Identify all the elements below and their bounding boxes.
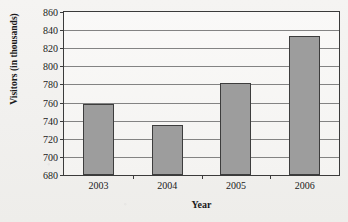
y-tick-label: 860	[43, 7, 58, 18]
y-tick-label: 720	[43, 133, 58, 144]
y-tick-label: 760	[43, 97, 58, 108]
x-tick-label-2003: 2003	[88, 180, 108, 191]
y-tick-mark	[60, 103, 64, 104]
plot-area: 6807007207407607808008208408602003200420…	[63, 11, 340, 176]
y-tick-label: 740	[43, 115, 58, 126]
y-tick-mark	[60, 48, 64, 49]
y-tick-mark	[60, 84, 64, 85]
chart-title: VISITATION AT ARCHES NATIONAL PARK 2003–…	[0, 0, 348, 2]
x-tick-label-2004: 2004	[157, 180, 177, 191]
bar-2006	[289, 36, 320, 175]
y-tick-label: 840	[43, 25, 58, 36]
y-tick-label: 680	[43, 170, 58, 181]
y-tick-mark	[60, 139, 64, 140]
y-tick-mark	[60, 175, 64, 176]
y-tick-mark	[60, 66, 64, 67]
y-tick-mark	[60, 12, 64, 13]
y-tick-label: 820	[43, 43, 58, 54]
y-tick-label: 800	[43, 61, 58, 72]
y-tick-mark	[60, 157, 64, 158]
bar-2003	[83, 104, 114, 175]
x-axis-label: Year	[63, 199, 340, 210]
y-tick-label: 700	[43, 151, 58, 162]
y-axis-label: Visitors (in thousands)	[9, 0, 19, 129]
gridline	[64, 30, 339, 31]
x-tick-mark	[270, 175, 271, 179]
y-tick-label: 780	[43, 79, 58, 90]
x-tick-mark	[133, 175, 134, 179]
bar-chart: VISITATION AT ARCHES NATIONAL PARK 2003–…	[0, 0, 348, 222]
x-tick-label-2005: 2005	[226, 180, 246, 191]
x-tick-label-2006: 2006	[295, 180, 315, 191]
y-tick-mark	[60, 121, 64, 122]
bar-2005	[220, 83, 251, 175]
x-tick-mark	[202, 175, 203, 179]
y-tick-mark	[60, 30, 64, 31]
bar-2004	[152, 125, 183, 175]
